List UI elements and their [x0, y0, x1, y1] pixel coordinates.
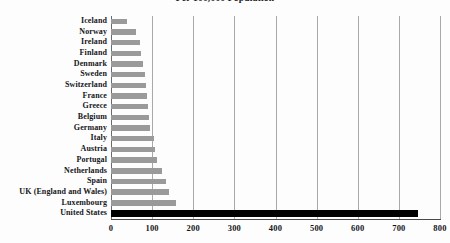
- bar-row: Iceland: [0, 16, 450, 27]
- bar-spain: [111, 179, 166, 184]
- bar-ireland: [111, 40, 140, 45]
- bar-luxembourg: [111, 200, 176, 205]
- bar-row: France: [0, 91, 450, 102]
- category-label-greece: Greece: [0, 101, 107, 112]
- bar-greece: [111, 104, 148, 109]
- chart-subtitle: Per 100,000 Population: [0, 0, 450, 4]
- bar-norway: [111, 29, 136, 34]
- category-label-austria: Austria: [0, 144, 107, 155]
- bar-finland: [111, 51, 141, 56]
- x-tick-label-700: 700: [379, 223, 419, 233]
- bar-denmark: [111, 61, 143, 66]
- bar-row: Norway: [0, 27, 450, 38]
- x-tick-label-300: 300: [214, 223, 254, 233]
- category-label-norway: Norway: [0, 27, 107, 38]
- bar-united-states: [111, 210, 418, 216]
- bar-row: Belgium: [0, 112, 450, 123]
- bar-row: Switzerland: [0, 80, 450, 91]
- bar-row: Italy: [0, 133, 450, 144]
- bar-row: Portugal: [0, 155, 450, 166]
- bar-row: Denmark: [0, 59, 450, 70]
- bar-switzerland: [111, 83, 146, 88]
- bar-germany: [111, 125, 150, 130]
- bar-italy: [111, 136, 154, 141]
- bar-row: Ireland: [0, 37, 450, 48]
- category-label-sweden: Sweden: [0, 69, 107, 80]
- category-label-iceland: Iceland: [0, 16, 107, 27]
- bar-chart-figure: Per 100,000 Population IcelandNorwayIrel…: [0, 0, 450, 243]
- x-tick-label-600: 600: [338, 223, 378, 233]
- bar-netherlands: [111, 168, 162, 173]
- x-tick-label-0: 0: [91, 223, 131, 233]
- category-label-france: France: [0, 91, 107, 102]
- category-label-spain: Spain: [0, 176, 107, 187]
- bar-row: Austria: [0, 144, 450, 155]
- category-label-germany: Germany: [0, 123, 107, 134]
- bar-portugal: [111, 157, 157, 162]
- category-label-portugal: Portugal: [0, 155, 107, 166]
- bar-sweden: [111, 72, 145, 77]
- bar-uk-england-and-wales: [111, 189, 169, 194]
- x-axis-line: [111, 219, 441, 220]
- category-label-switzerland: Switzerland: [0, 80, 107, 91]
- category-label-ireland: Ireland: [0, 37, 107, 48]
- x-tick-label-500: 500: [297, 223, 337, 233]
- bar-row: UK (England and Wales): [0, 187, 450, 198]
- category-label-netherlands: Netherlands: [0, 166, 107, 177]
- bar-row: Luxembourg: [0, 198, 450, 209]
- bar-row: Germany: [0, 123, 450, 134]
- category-label-denmark: Denmark: [0, 59, 107, 70]
- category-label-luxembourg: Luxembourg: [0, 198, 107, 209]
- bar-austria: [111, 147, 155, 152]
- bar-row: Greece: [0, 101, 450, 112]
- category-label-italy: Italy: [0, 133, 107, 144]
- category-label-belgium: Belgium: [0, 112, 107, 123]
- bar-iceland: [111, 19, 127, 24]
- bar-row: United States: [0, 208, 450, 219]
- bar-row: Netherlands: [0, 166, 450, 177]
- bar-france: [111, 93, 147, 98]
- x-tick-label-400: 400: [256, 223, 296, 233]
- x-tick-label-100: 100: [132, 223, 172, 233]
- x-tick-label-800: 800: [420, 223, 450, 233]
- x-tick-label-200: 200: [173, 223, 213, 233]
- bar-row: Sweden: [0, 69, 450, 80]
- category-label-united-states: United States: [0, 208, 107, 219]
- bar-belgium: [111, 115, 149, 120]
- bar-row: Spain: [0, 176, 450, 187]
- bar-row: Finland: [0, 48, 450, 59]
- chart-title-block: Per 100,000 Population: [0, 0, 450, 4]
- category-label-finland: Finland: [0, 48, 107, 59]
- category-label-uk-england-and-wales: UK (England and Wales): [0, 187, 107, 198]
